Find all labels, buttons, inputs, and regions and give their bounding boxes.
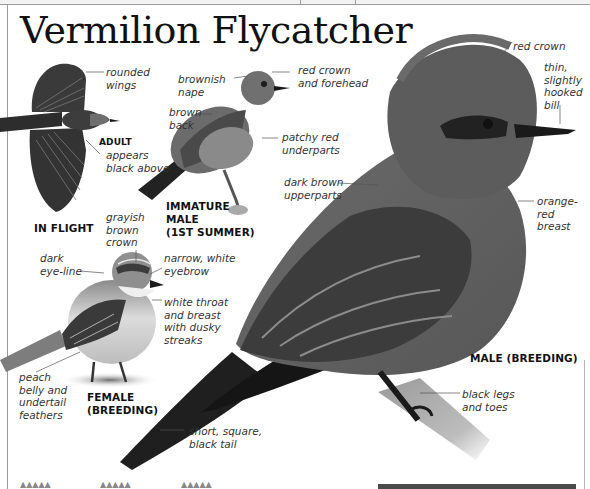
label-brownish-nape: brownish nape — [178, 73, 226, 98]
label-adult-tag: ADULT — [99, 136, 132, 149]
label-red-crown-forehead: red crown and forehead — [298, 64, 368, 89]
label-white-throat-breast: white throat and breast with dusky strea… — [164, 296, 228, 346]
footer-marks-2: ▲▲▲▲▲ — [100, 480, 131, 489]
footer-photo-strip — [378, 484, 576, 489]
footer-marks-3: ▲▲▲▲▲ — [181, 480, 212, 489]
label-narrow-white-eyebrow: narrow, white eyebrow — [164, 252, 235, 277]
label-hooked-bill: thin, slightly hooked bill — [544, 61, 583, 111]
label-short-square-black-tail: short, square, black tail — [189, 425, 262, 450]
label-patchy-red-underparts: patchy red underparts — [282, 131, 340, 156]
label-dark-brown-upperparts: dark brown upperparts — [284, 176, 343, 201]
label-dark-eye-line: dark eye-line — [40, 252, 82, 277]
page-title: Vermilion Flycatcher — [20, 6, 412, 54]
female-bird — [0, 252, 164, 388]
label-brown-back: brown back — [169, 106, 202, 131]
label-appears-black: appears black above — [106, 149, 169, 174]
label-grayish-brown-crown: grayish brown crown — [106, 211, 145, 249]
label-orange-red-breast: orange- red breast — [537, 195, 578, 233]
label-peach-belly: peach belly and undertail feathers — [19, 371, 67, 421]
caption-in-flight: IN FLIGHT — [34, 222, 94, 235]
field-guide-page: Vermilion Flycatcher rounded wings ADULT… — [0, 0, 590, 489]
caption-female-breeding: FEMALE (BREEDING) — [87, 391, 158, 417]
footer-marks-1: ▲▲▲▲▲ — [20, 480, 51, 489]
label-rounded-wings: rounded wings — [106, 66, 150, 91]
label-black-legs-toes: black legs and toes — [462, 388, 515, 413]
caption-male-breeding: MALE (BREEDING) — [470, 352, 578, 365]
caption-immature-male: IMMATURE MALE (1ST SUMMER) — [166, 200, 255, 239]
label-red-crown: red crown — [513, 40, 566, 53]
